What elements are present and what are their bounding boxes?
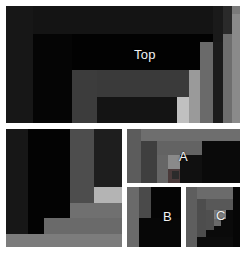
left-step-bar-3 [6, 234, 122, 247]
panel-a[interactable]: A [127, 129, 240, 183]
c-second-col [197, 199, 206, 237]
panel-top[interactable]: Top [6, 6, 240, 123]
pale-bar [177, 97, 189, 123]
b-lower-field [139, 218, 181, 247]
c-right-dark [233, 187, 240, 247]
panel-left[interactable]: Left [6, 129, 122, 247]
c-top-bar [197, 187, 233, 199]
mid-left-block [72, 70, 97, 123]
b-left-col [127, 187, 139, 247]
left-step-bar-1 [70, 203, 122, 218]
outer-top-band [33, 6, 213, 34]
tall-bar-e [232, 14, 240, 123]
left-tall-bar [70, 129, 94, 203]
a-second-col [141, 141, 157, 183]
a-mid-bar [157, 141, 202, 155]
a-left-col [127, 129, 141, 183]
c-left-col [186, 187, 197, 247]
panel-c[interactable]: C [186, 187, 240, 247]
c-inner-col [206, 210, 214, 230]
a-right-dark [202, 141, 240, 183]
tall-bar-c [213, 42, 223, 123]
c-bottom-strip [197, 237, 233, 247]
mid-wide-bar [97, 70, 198, 97]
panel-b[interactable]: B [127, 187, 181, 247]
tall-bar-d [223, 34, 232, 123]
left-dark-right [94, 129, 122, 187]
a-inner-seed [172, 171, 179, 179]
inner-top-strip [72, 34, 213, 70]
left-step-bar-2 [44, 218, 122, 234]
c-inner-seed [214, 219, 221, 226]
a-top-bar [141, 129, 240, 141]
a-inner-light [168, 155, 180, 169]
a-inner-col [157, 155, 168, 183]
diagram-root: TopLeftABC [0, 0, 246, 253]
b-second-col [139, 187, 151, 218]
c-inner-light [214, 210, 226, 219]
outer-left-band [6, 6, 33, 123]
left-pale-block [94, 187, 122, 203]
tall-bar-b [200, 42, 213, 123]
c-inner-bar [206, 199, 233, 210]
inner-left-col [33, 34, 72, 123]
left-outer-col [6, 129, 28, 247]
mid-lower-fill [97, 97, 177, 123]
tall-bar-a [189, 70, 200, 123]
